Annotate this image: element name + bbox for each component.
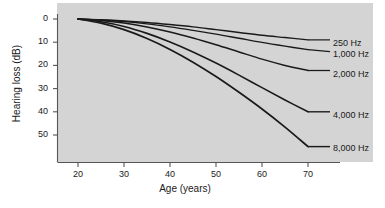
hearing-loss-chart: 0 10 20 30 40 50 20 30 40 50 60 70 Heari…	[0, 0, 385, 208]
series-label-2000hz: 2,000 Hz	[333, 69, 369, 79]
series-label-4000hz: 4,000 Hz	[333, 110, 369, 120]
x-tick-label: 50	[204, 169, 228, 179]
x-axis-title: Age (years)	[130, 183, 240, 194]
series-curve-4000hz	[78, 19, 308, 112]
x-tick-label: 20	[66, 169, 90, 179]
series-label-8000hz: 8,000 Hz	[333, 143, 369, 153]
y-tick-marks	[53, 19, 58, 135]
series-leader-line	[308, 50, 330, 52]
series-label-250hz: 250 Hz	[333, 38, 362, 48]
x-tick-label: 70	[296, 169, 320, 179]
series-paths	[78, 19, 330, 147]
y-axis-title: Hearing loss (dB)	[11, 24, 22, 144]
series-label-1000hz: 1,000 Hz	[333, 49, 369, 59]
x-tick-label: 40	[158, 169, 182, 179]
plot-curves	[0, 0, 385, 208]
x-tick-marks	[78, 163, 308, 168]
x-tick-label: 30	[112, 169, 136, 179]
x-tick-label: 60	[250, 169, 274, 179]
y-axis-title-wrapper: Hearing loss (dB)	[0, 0, 30, 170]
